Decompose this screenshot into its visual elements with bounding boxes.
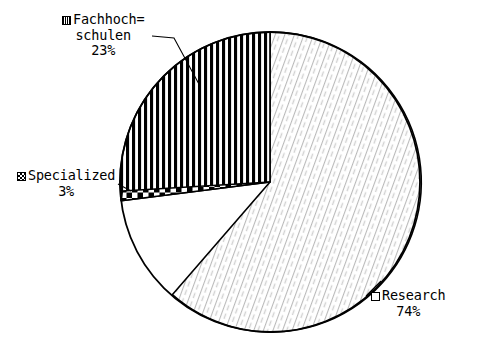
slice-label-research-text: Research: [382, 287, 445, 303]
slice-label-specialized: Specialized 3%: [17, 168, 115, 199]
slice-label-research-line1: Research: [371, 288, 445, 304]
vertical-stripe-swatch-icon: [62, 16, 71, 25]
slice-percent-research: 74%: [371, 304, 445, 320]
checkerboard-swatch-icon: [17, 172, 26, 181]
slice-percent-specialized: 3%: [17, 184, 115, 200]
slice-label-fachhochschulen: Fachhoch= schulen 23%: [62, 12, 144, 59]
slice-label-fachhochschulen-text2: schulen: [62, 28, 144, 44]
slice-percent-fachhochschulen: 23%: [62, 43, 144, 59]
slice-label-specialized-text: Specialized: [28, 167, 115, 183]
hollow-swatch-icon: [371, 292, 380, 301]
slice-label-specialized-line1: Specialized: [17, 168, 115, 184]
slice-label-research: Research 74%: [371, 288, 445, 319]
pie-chart-page: Fachhoch= schulen 23% Specialized 3% Res…: [0, 0, 477, 352]
slice-label-fachhochschulen-text1: Fachhoch=: [73, 11, 144, 27]
slice-label-fachhochschulen-line1: Fachhoch=: [62, 12, 144, 28]
